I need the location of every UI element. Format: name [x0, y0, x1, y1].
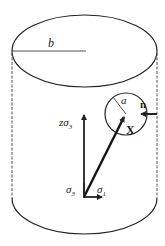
label-sigma3: σ3 [66, 183, 75, 198]
label-axial-stress: zσ3 [58, 116, 73, 131]
cylinder-bottom-arc [12, 198, 157, 234]
label-sigma1: σ1 [97, 183, 106, 198]
cylinder-diagram: b a n X zσ3 σ3 σ1 [0, 0, 165, 246]
position-x-arrow [84, 117, 124, 197]
label-b: b [48, 36, 54, 50]
label-a: a [121, 94, 127, 106]
label-n: n [140, 98, 146, 110]
label-x: X [126, 123, 135, 137]
